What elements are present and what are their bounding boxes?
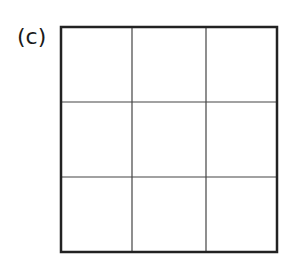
inner-grid-lines	[61, 27, 277, 252]
three-by-three-grid	[0, 0, 290, 257]
outer-border	[61, 27, 277, 252]
